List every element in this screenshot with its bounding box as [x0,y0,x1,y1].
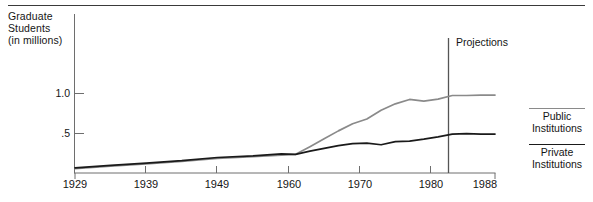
x-tick-label-1980: 1980 [410,178,452,190]
legend-swatch-public-icon [529,108,585,109]
y-tick-label-1-0: 1.0 [44,87,70,99]
x-tick-label-1960: 1960 [268,178,310,190]
series-line-private-institutions [75,134,495,168]
plot-area [0,0,593,202]
legend-label-private: Private Institutions [521,146,593,170]
y-axis-ticks [75,94,85,134]
legend-label-public: Public Institutions [521,110,593,134]
x-tick-label-1970: 1970 [339,178,381,190]
graduate-students-chart-figure: Graduate Students (in millions) 1.0 .5 1… [0,0,593,202]
legend-swatch-private-icon [529,144,585,145]
x-axis-ticks [146,166,431,173]
x-tick-label-1939: 1939 [125,178,167,190]
projections-annotation-label: Projections [456,36,508,48]
y-tick-label-0-5: .5 [44,127,70,139]
legend-entry-public: Public Institutions [521,108,593,134]
series-line-public-institutions [75,95,495,169]
x-tick-label-1949: 1949 [196,178,238,190]
legend-entry-private: Private Institutions [521,144,593,170]
x-tick-label-1929: 1929 [54,178,96,190]
x-tick-label-1988: 1988 [464,178,506,190]
chart-legend: Public Institutions Private Institutions [521,108,593,180]
